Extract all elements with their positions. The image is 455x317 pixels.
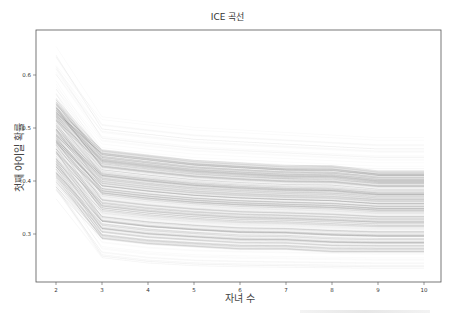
x-tick-label: 7 [284, 287, 288, 293]
y-tick-label: 0.4 [22, 178, 31, 184]
x-tick-label: 10 [421, 287, 428, 293]
x-tick-label: 2 [54, 287, 58, 293]
y-tick-label: 0.6 [22, 72, 31, 78]
y-axis-ticks: 0.30.40.50.6 [22, 72, 36, 237]
cropped-caption-text [300, 310, 430, 313]
x-tick-label: 4 [146, 287, 150, 293]
ice-chart-plot: 2345678910 0.30.40.50.6 [0, 0, 455, 317]
x-tick-label: 8 [330, 287, 334, 293]
x-tick-label: 9 [376, 287, 380, 293]
ice-curves [56, 46, 424, 268]
y-tick-label: 0.5 [22, 125, 31, 131]
x-axis-ticks: 2345678910 [54, 282, 428, 293]
x-tick-label: 3 [100, 287, 104, 293]
x-tick-label: 5 [192, 287, 196, 293]
x-tick-label: 6 [238, 287, 242, 293]
y-tick-label: 0.3 [22, 231, 31, 237]
